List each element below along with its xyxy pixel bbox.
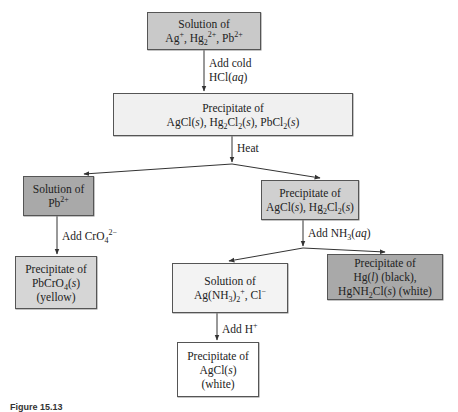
node-precipitate-pbcro4: Precipitate of PbCrO4(s) (yellow) <box>15 256 97 309</box>
edge-label-add-h: Add H+ <box>222 322 258 336</box>
edge-label-add-hcl: Add cold HCl(aq) <box>209 56 251 84</box>
node-pbcro4-line2: PbCrO4(s) <box>32 276 80 290</box>
node-start-line2: Ag+, Hg22+, Pb2+ <box>165 31 242 45</box>
node-precipitate-all-chlorides: Precipitate of AgCl(s), Hg2Cl2(s), PbCl2… <box>113 93 353 136</box>
arrow-to-sol-ag-nh3 <box>229 248 303 261</box>
node-start-line1: Solution of <box>178 17 229 31</box>
node-precip-hg-line3: HgNH2Cl(s) (white) <box>338 284 432 298</box>
edge-label-heat: Heat <box>237 141 259 155</box>
node-start-solution: Solution of Ag+, Hg22+, Pb2+ <box>147 12 261 50</box>
edge-add-hcl-line1: Add cold <box>209 56 251 70</box>
node-sol-pb-line1: Solution of <box>33 182 84 196</box>
node-precip-hg-line2: Hg(l) (black), <box>353 270 416 284</box>
node-solution-pb: Solution of Pb2+ <box>23 176 94 216</box>
arrow-to-precip-hg <box>303 248 385 252</box>
edge-label-add-nh3: Add NH3(aq) <box>308 226 370 240</box>
edge-label-add-cro4: Add CrO42− <box>62 229 117 243</box>
node-precip-agcl-line1: Precipitate of <box>187 349 249 363</box>
node-precip-ag-hg-line2: AgCl(s), Hg2Cl2(s) <box>266 200 354 214</box>
node-precip-all-line2: AgCl(s), Hg2Cl2(s), PbCl2(s) <box>167 115 300 129</box>
node-pbcro4-line1: Precipitate of <box>25 262 87 276</box>
node-precip-all-line1: Precipitate of <box>202 101 264 115</box>
arrow-to-precip-ag-hg <box>232 164 320 178</box>
node-precipitate-agcl-white: Precipitate of AgCl(s) (white) <box>177 342 259 397</box>
node-precip-agcl-line2: AgCl(s) <box>199 363 236 377</box>
node-precip-hg-line1: Precipitate of <box>354 256 416 270</box>
node-pbcro4-line3: (yellow) <box>37 290 76 304</box>
node-precipitate-hg: Precipitate of Hg(l) (black), HgNH2Cl(s)… <box>327 254 443 300</box>
node-precip-ag-hg-line1: Precipitate of <box>279 186 341 200</box>
arrow-to-sol-pb <box>84 164 232 174</box>
node-sol-pb-line2: Pb2+ <box>48 196 69 210</box>
node-precip-agcl-line3: (white) <box>201 377 234 391</box>
figure-caption: Figure 15.13 <box>10 402 63 412</box>
node-solution-ag-nh3: Solution of Ag(NH3)2+, Cl− <box>172 263 288 313</box>
node-sol-ag-nh3-line2: Ag(NH3)2+, Cl− <box>194 288 266 302</box>
node-sol-ag-nh3-line1: Solution of <box>204 274 255 288</box>
edge-add-hcl-line2: HCl(aq) <box>209 70 251 84</box>
node-precipitate-agcl-hg2cl2: Precipitate of AgCl(s), Hg2Cl2(s) <box>261 180 359 220</box>
